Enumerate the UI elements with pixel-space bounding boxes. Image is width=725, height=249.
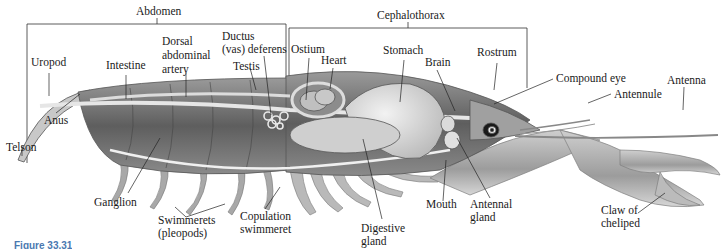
label-rostrum: Rostrum [477, 46, 517, 59]
figure-caption: Figure 33.31 [14, 240, 72, 249]
label-dorsal-abdominal-artery: Dorsal abdominal artery [162, 34, 211, 76]
label-brain: Brain [425, 56, 451, 69]
label-ostium: Ostium [291, 43, 325, 56]
label-antenna: Antenna [667, 74, 706, 87]
label-intestine: Intestine [106, 59, 146, 72]
label-anus: Anus [44, 114, 68, 127]
label-testis: Testis [233, 60, 260, 73]
crayfish-anatomy-diagram: Abdomen Cephalothorax Uropod Intestine D… [0, 0, 725, 249]
label-heart: Heart [321, 54, 347, 67]
label-antennal-gland: Antennal gland [470, 198, 512, 224]
label-claw-of-cheliped: Claw of cheliped [601, 204, 640, 230]
label-digestive-gland: Digestive gland [361, 222, 405, 248]
label-ductus-deferens: Ductus (vas) deferens [222, 30, 287, 56]
label-mouth: Mouth [426, 198, 457, 211]
region-label-cephalothorax: Cephalothorax [377, 9, 445, 22]
label-swimmerets: Swimmerets (pleopods) [158, 214, 216, 240]
region-label-abdomen: Abdomen [136, 5, 181, 18]
label-compound-eye: Compound eye [556, 72, 626, 85]
label-stomach: Stomach [383, 44, 423, 57]
label-antennule: Antennule [614, 88, 662, 101]
label-copulation-swimmeret: Copulation swimmeret [240, 210, 291, 236]
label-uropod: Uropod [31, 56, 66, 69]
label-telson: Telson [6, 141, 37, 154]
label-ganglion: Ganglion [94, 196, 137, 209]
